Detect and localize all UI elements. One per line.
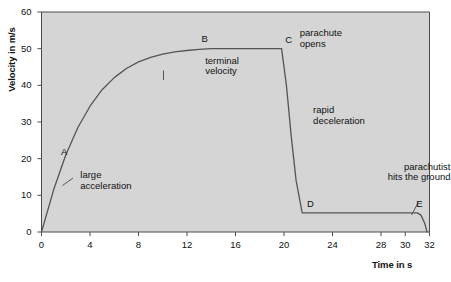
y-tick-label: 10 (10, 189, 32, 200)
x-tick-label: 32 (419, 239, 441, 250)
x-tick-label: 16 (225, 239, 247, 250)
x-tick-label: 20 (273, 239, 295, 250)
y-tick-label: 30 (10, 116, 32, 127)
figure-caption (8, 272, 308, 282)
plot-background (42, 12, 430, 232)
x-tick-label: 28 (370, 239, 392, 250)
annotation-terminal-velocity: terminal velocity (205, 56, 239, 77)
annotation-parachute-opens: parachute opens (300, 28, 342, 49)
annotation-point-a: A (61, 147, 67, 158)
annotation-point-e: E (416, 199, 422, 210)
annotation-rapid-deceleration: rapid deceleration (313, 105, 365, 126)
annotation-point-b: B (202, 34, 208, 45)
x-tick-label: 4 (79, 239, 101, 250)
annotation-large-acceleration: large acceleration (80, 170, 131, 191)
x-tick-label: 0 (31, 239, 53, 250)
x-axis-ticks (42, 232, 430, 236)
x-tick-label: 24 (322, 239, 344, 250)
y-tick-label: 60 (10, 6, 32, 17)
y-tick-label: 20 (10, 153, 32, 164)
y-axis-ticks (38, 12, 42, 232)
y-tick-label: 0 (10, 226, 32, 237)
annotation-point-d: D (307, 199, 314, 210)
y-tick-label: 50 (10, 43, 32, 54)
x-tick-label: 30 (394, 239, 416, 250)
y-tick-label: 40 (10, 79, 32, 90)
x-tick-label: 8 (128, 239, 150, 250)
annotation-point-c: C (285, 35, 292, 46)
x-tick-label: 12 (176, 239, 198, 250)
annotation-parachutist-hits-the-ground: parachutist hits the ground (388, 162, 451, 183)
